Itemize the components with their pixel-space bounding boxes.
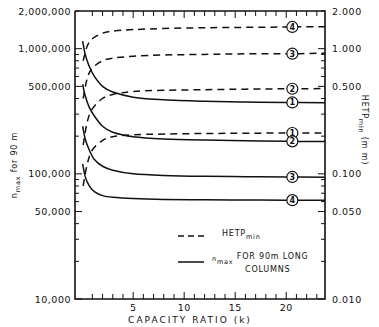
x-tick-label: 15 [229, 302, 242, 313]
curve-label-number: 3 [290, 50, 296, 59]
legend: HETPminnmax FOR 90m LONGCOLUMNS [178, 229, 309, 274]
y-right-tick-label: 0.050 [332, 206, 362, 217]
y-left-axis-title: nmax for 90 m [10, 132, 22, 198]
x-tick-label: 20 [280, 302, 293, 313]
y-left-tick-label: 1,000,000 [18, 43, 71, 54]
y-right-tick-label: 1.000 [332, 43, 362, 54]
y-right-tick-label: 0.100 [332, 168, 362, 179]
curve-label-number: 4 [290, 23, 296, 32]
y-left-tick-label: 500,000 [28, 81, 71, 92]
x-tick-label: 10 [178, 302, 191, 313]
curve-label-number: 2 [290, 85, 296, 94]
nmax-curve-4 [83, 164, 325, 200]
legend-nmax-label-line2: COLUMNS [245, 265, 290, 274]
y-right-axis-title: HETPmin (m m) [357, 95, 369, 165]
curve-label-number: 3 [290, 173, 296, 182]
y-right-tick-label: 0.010 [332, 294, 362, 305]
chart-canvas: 5101520CAPACITY RATIO (k)2,000,0001,000,… [0, 0, 379, 327]
curve-labels: 12341234 [287, 21, 298, 205]
legend-hetp-label: HETPmin [222, 229, 261, 241]
curve-label-number: 2 [290, 137, 296, 146]
y-left-tick-label: 10,000 [35, 294, 71, 305]
y-left-tick-label: 100,000 [28, 168, 71, 179]
legend-nmax-label: nmax FOR 90m LONG [212, 252, 309, 266]
x-tick-label: 5 [130, 302, 137, 313]
curve-label-number: 4 [290, 196, 296, 205]
y-right-tick-label: 0.500 [332, 81, 362, 92]
y-left-tick-label: 2,000,000 [18, 6, 71, 17]
curve-label-number: 1 [290, 98, 296, 107]
y-left-tick-label: 50,000 [35, 206, 71, 217]
x-axis-title: CAPACITY RATIO (k) [128, 315, 252, 325]
y-right-tick-label: 2.000 [332, 6, 362, 17]
